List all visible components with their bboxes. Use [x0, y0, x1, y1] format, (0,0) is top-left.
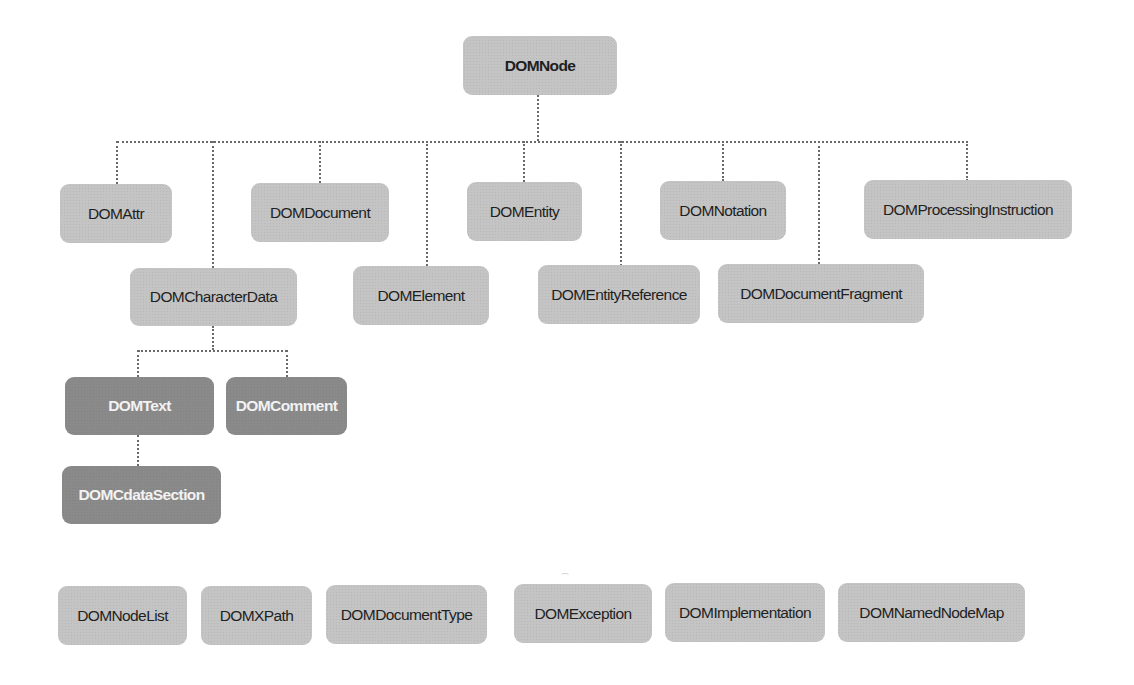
connector-character-data-horizontal — [138, 350, 287, 352]
node-dom-cdata-section: DOMCdataSection — [62, 466, 221, 524]
node-label: DOMAttr — [88, 205, 144, 223]
node-dom-notation: DOMNotation — [660, 181, 786, 240]
node-label: DOMProcessingInstruction — [883, 201, 1053, 219]
connector-document-fragment — [818, 141, 820, 264]
node-dom-implementation: DOMImplementation — [665, 583, 825, 642]
node-label: DOMEntityReference — [551, 286, 687, 304]
node-label: DOMElement — [377, 287, 464, 305]
connector-root-down — [537, 95, 539, 141]
connector-comment — [286, 350, 288, 377]
node-dom-entity: DOMEntity — [467, 182, 582, 241]
connector-entity-reference — [620, 141, 622, 266]
node-dom-document: DOMDocument — [251, 183, 389, 242]
node-label: DOMXPath — [220, 607, 294, 625]
node-label: DOMDocumentFragment — [740, 285, 902, 303]
stray-mark — [561, 573, 569, 577]
connector-text — [137, 350, 139, 377]
node-label: DOMImplementation — [679, 604, 811, 622]
connector-element — [426, 141, 428, 266]
node-label: DOMNotation — [679, 202, 766, 220]
node-dom-document-fragment: DOMDocumentFragment — [718, 264, 924, 323]
node-dom-document-type: DOMDocumentType — [326, 585, 487, 644]
node-label: DOMNodeList — [77, 607, 168, 625]
node-dom-xpath: DOMXPath — [201, 586, 312, 645]
node-dom-text: DOMText — [65, 377, 214, 435]
node-label: DOMNode — [505, 57, 576, 75]
node-label: DOMDocumentType — [341, 606, 472, 624]
connector-processing-instruction — [966, 141, 968, 181]
connector-notation — [722, 141, 724, 181]
connector-document — [319, 141, 321, 183]
node-label: DOMComment — [236, 397, 338, 415]
node-dom-comment: DOMComment — [226, 377, 347, 435]
connector-entity — [523, 141, 525, 182]
node-label: DOMEntity — [490, 203, 560, 221]
node-label: DOMException — [534, 605, 631, 623]
connector-main-horizontal — [117, 141, 968, 143]
node-dom-exception: DOMException — [514, 584, 652, 643]
node-label: DOMNamedNodeMap — [859, 604, 1003, 622]
node-dom-attr: DOMAttr — [60, 184, 172, 243]
node-dom-entity-reference: DOMEntityReference — [538, 265, 700, 324]
node-label: DOMText — [108, 397, 171, 415]
connector-character-data-down — [212, 326, 214, 350]
node-label: DOMCdataSection — [78, 486, 204, 504]
node-dom-named-node-map: DOMNamedNodeMap — [838, 583, 1025, 642]
connector-text-down — [137, 435, 139, 466]
node-dom-element: DOMElement — [353, 266, 489, 325]
node-dom-processing-instruction: DOMProcessingInstruction — [864, 180, 1072, 239]
node-dom-character-data: DOMCharacterData — [130, 268, 297, 326]
connector-attr — [116, 141, 118, 184]
node-label: DOMCharacterData — [150, 288, 277, 306]
node-dom-node: DOMNode — [463, 36, 617, 95]
node-dom-node-list: DOMNodeList — [58, 586, 187, 645]
connector-character-data — [212, 141, 214, 268]
node-label: DOMDocument — [270, 204, 370, 222]
